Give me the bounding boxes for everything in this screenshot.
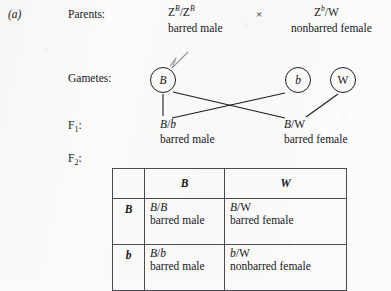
line-B-to-f1-right (173, 92, 285, 118)
row-label-f2: F2: (68, 152, 82, 167)
punnett-col-header-W: W (225, 169, 347, 199)
gamete-label-B: B (159, 74, 166, 86)
parent-right-genotype: Zb/W (314, 6, 339, 18)
gamete-label-W: W (338, 74, 349, 86)
f1-right-genotype: B/W (284, 118, 305, 130)
punnett-header-row: B W (113, 169, 347, 199)
line-W-to-f1-right (306, 94, 338, 117)
parent-left-phenotype: barred male (168, 22, 223, 34)
punnett-cell-b-W-allele-2: W (239, 247, 250, 259)
punnett-cell-b-B: B/b barred male (145, 245, 225, 291)
punnett-cell-b-B-genotype: B/b (150, 247, 224, 260)
f1-right-phenotype: barred female (284, 133, 348, 145)
f1-right-allele-1: B (284, 118, 291, 130)
panel-letter: (a) (8, 8, 21, 20)
punnett-cell-B-B-allele-2: B (160, 201, 167, 213)
punnett-cell-B-W-genotype: B/W (230, 201, 346, 214)
line-b-to-f1-left (172, 93, 285, 118)
gamete-circle-W: W (330, 67, 356, 93)
f1-left-allele-2: b (170, 118, 176, 130)
row-label-f1: F1: (68, 119, 82, 134)
punnett-cell-B-W-allele-2: W (240, 201, 251, 213)
punnett-col-header-B: B (145, 169, 225, 199)
parent-right-phenotype: nonbarred female (291, 22, 372, 34)
punnett-cell-B-W-allele-1: B (230, 201, 237, 213)
punnett-cell-B-B-allele-1: B (150, 201, 157, 213)
f1-left-genotype: B/b (160, 118, 176, 130)
f1-left-phenotype: barred male (160, 133, 215, 145)
gamete-label-b: b (295, 74, 301, 86)
punnett-cell-b-W: b/W nonbarred female (225, 245, 347, 291)
parent-left-genotype-text: Z (168, 6, 175, 18)
row-label-parents: Parents: (68, 8, 105, 20)
punnett-cell-B-B-genotype: B/B (150, 201, 224, 214)
f1-right-allele-2: W (294, 118, 305, 130)
punnett-corner-cell (113, 169, 145, 199)
parent-left-sup2: B (190, 4, 195, 13)
punnett-cell-b-B-allele-1: B (150, 247, 157, 259)
punnett-cell-B-B: B/B barred male (145, 199, 225, 245)
punnett-cell-B-W-phenotype: barred female (230, 214, 346, 227)
punnett-cell-b-B-allele-2: b (160, 247, 166, 259)
f1-left-allele-1: B (160, 118, 167, 130)
punnett-row-B: B B/B barred male B/W barred female (113, 199, 347, 245)
gamete-circle-b: b (285, 67, 311, 93)
parent-right-rest: /W (325, 6, 339, 18)
punnett-row-header-b: b (113, 245, 145, 291)
cross-symbol: × (256, 8, 262, 20)
punnett-cell-B-B-phenotype: barred male (150, 214, 224, 227)
parent-right-genotype-text: Z (314, 6, 321, 18)
punnett-row-header-B: B (113, 199, 145, 245)
row-label-gametes: Gametes: (68, 72, 111, 84)
punnett-cell-b-W-phenotype: nonbarred female (230, 260, 346, 273)
punnett-cell-B-W: B/W barred female (225, 199, 347, 245)
gamete-circle-B: B (150, 67, 176, 93)
punnett-cell-b-W-genotype: b/W (230, 247, 346, 260)
parent-left-mid: /Z (180, 6, 190, 18)
punnett-cell-b-B-phenotype: barred male (150, 260, 224, 273)
punnett-row-b: b B/b barred male b/W nonbarred female (113, 245, 347, 291)
punnett-square: B W B B/B barred male B/W barred female … (112, 168, 347, 291)
parent-left-genotype: ZB/ZB (168, 6, 195, 18)
stray-pen-mark (170, 52, 188, 68)
